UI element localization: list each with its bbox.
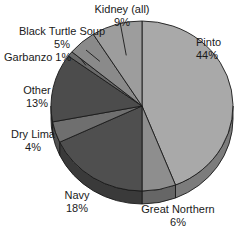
slice-label-pinto-pct: 44% xyxy=(196,49,221,62)
slice-label-other-pct: 13% xyxy=(10,97,64,110)
slice-label-dry-lima-name: Dry Lima xyxy=(11,128,55,140)
slice-label-great-northern-name: Great Northern xyxy=(141,203,214,215)
slice-label-other: Other 13% xyxy=(10,84,64,109)
slice-label-garbanzo: Garbanzo 1% xyxy=(4,51,71,64)
slice-label-black-turtle-soup-name: Black Turtle Soup xyxy=(19,25,105,37)
slice-label-dry-lima: Dry Lima 4% xyxy=(2,128,64,153)
slice-label-navy: Navy 18% xyxy=(52,189,102,214)
slice-label-pinto: Pinto 44% xyxy=(196,36,221,61)
slice-label-black-turtle-soup-pct: 5% xyxy=(3,38,121,51)
slice-label-great-northern-pct: 6% xyxy=(126,216,230,229)
slice-label-garbanzo-name: Garbanzo 1% xyxy=(4,51,71,63)
pie-chart: Kidney (all) 9% Black Turtle Soup 5% Gar… xyxy=(0,0,246,232)
slice-label-dry-lima-pct: 4% xyxy=(2,141,64,154)
slice-label-black-turtle-soup: Black Turtle Soup 5% xyxy=(3,25,121,50)
slice-label-navy-pct: 18% xyxy=(52,202,102,215)
slice-label-great-northern: Great Northern 6% xyxy=(126,203,230,228)
slice-label-other-name: Other xyxy=(23,84,51,96)
slice-label-pinto-name: Pinto xyxy=(196,36,221,48)
slice-label-navy-name: Navy xyxy=(64,189,89,201)
slice-label-kidney-name: Kidney (all) xyxy=(94,3,149,15)
